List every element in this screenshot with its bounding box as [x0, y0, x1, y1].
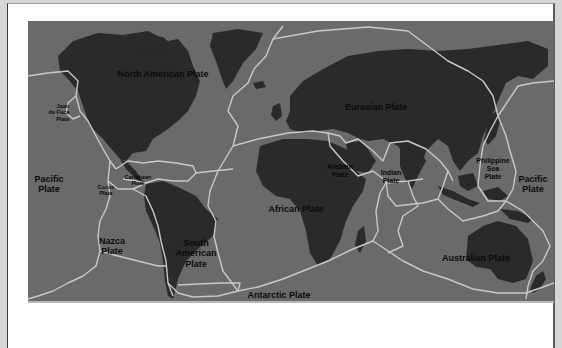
label-antarctic-plate: Antarctic Plate — [247, 290, 310, 300]
label-caribbean-plate: Caribbean Plate — [125, 174, 152, 187]
label-north-american-plate: North American Plate — [117, 69, 208, 79]
boundary-east-pacific-rise — [28, 181, 110, 299]
landmass-greenland — [210, 29, 263, 89]
tectonic-plate-map: North American Plate Juan de Fuca Plate … — [28, 21, 554, 303]
boundary-scotia-plate — [168, 283, 240, 297]
figure-card: North American Plate Juan de Fuca Plate … — [7, 3, 555, 348]
label-arabian-plate: Arabian Plate — [327, 163, 353, 179]
landmass-north-america — [58, 31, 200, 161]
label-indian-plate: Indian Plate — [381, 169, 402, 185]
label-eurasian-plate: Eurasian Plate — [345, 102, 407, 112]
boundary-north-american-pacific — [498, 81, 554, 116]
label-nazca-plate: Nazca Plate — [99, 236, 125, 257]
label-australian-plate: Australian Plate — [442, 253, 510, 263]
label-philippine-sea-plate: Philippine Sea Plate — [476, 157, 509, 181]
label-african-plate: African Plate — [268, 204, 323, 214]
label-south-american-plate: South American Plate — [175, 238, 216, 269]
label-pacific-plate-east: Pacific Plate — [518, 174, 547, 195]
label-pacific-plate-west: Pacific Plate — [34, 174, 63, 195]
landmass-india — [400, 149, 426, 189]
landmass-africa — [256, 139, 366, 266]
label-juan-de-fuca-plate: Juan de Fuca Plate — [49, 103, 70, 122]
label-cocos-plate: Cocos Plate — [98, 184, 115, 197]
